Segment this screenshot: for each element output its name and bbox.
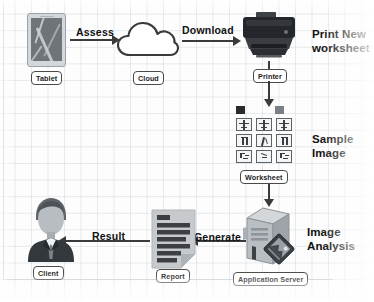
image-analysis-icon — [262, 232, 296, 270]
arrow-printer-to-worksheet-line — [268, 81, 270, 100]
arrow-worksheet-to-server-line — [268, 184, 270, 200]
worksheet-cell — [256, 134, 272, 147]
worksheet-cell — [256, 118, 272, 131]
report-shape — [150, 208, 200, 270]
edge-label-result: Result — [92, 230, 125, 242]
edge-label-generate: Generate — [194, 231, 241, 243]
tag-application-server: Application Server — [233, 272, 308, 286]
tablet-speaker-icon — [40, 16, 54, 18]
tablet-icon — [27, 13, 66, 67]
frame-left — [3, 2, 4, 280]
worksheet-top-icon-1 — [236, 106, 245, 114]
caption-image-analysis: Image Analysis — [307, 226, 355, 253]
client-icon — [22, 196, 80, 268]
tag-tablet: Tablet — [31, 71, 62, 85]
arrow-cloud-to-printer-line — [182, 40, 236, 42]
client-avatar-shape — [22, 196, 80, 264]
arrow-tablet-to-cloud-line — [70, 39, 114, 41]
tag-printer: Printer — [253, 69, 287, 83]
worksheet-cell — [276, 134, 292, 147]
worksheet-cell — [256, 150, 272, 163]
worksheet-cell — [236, 118, 252, 131]
worksheet-cell — [236, 134, 252, 147]
edge-label-assess: Assess — [76, 26, 114, 38]
worksheet-cell — [276, 150, 292, 163]
worksheet-cell — [276, 118, 292, 131]
caption-sample-image: Sample Image — [312, 133, 354, 160]
caption-print-new-worksheet: Print New worksheet — [312, 28, 370, 55]
printer-icon — [238, 12, 300, 64]
diagram-canvas: Tablet Assess Cloud Download Printer Pr — [0, 0, 374, 302]
arrow-printer-to-worksheet-upper — [268, 61, 270, 69]
tag-cloud: Cloud — [133, 71, 164, 85]
cloud-icon — [116, 20, 180, 64]
image-analysis-diamond-shape — [262, 232, 296, 266]
report-icon — [150, 208, 200, 274]
tag-client: Client — [33, 266, 64, 280]
tablet-screen — [31, 18, 62, 61]
edge-label-download: Download — [182, 24, 234, 36]
arrow-printer-to-worksheet-head — [264, 99, 274, 107]
printer-shape — [238, 12, 300, 60]
tag-report: Report — [156, 269, 190, 283]
worksheet-top-icon-2 — [275, 106, 284, 114]
worksheet-cell — [236, 150, 252, 163]
tag-worksheet: Worksheet — [240, 170, 288, 184]
cloud-shape — [116, 20, 180, 60]
